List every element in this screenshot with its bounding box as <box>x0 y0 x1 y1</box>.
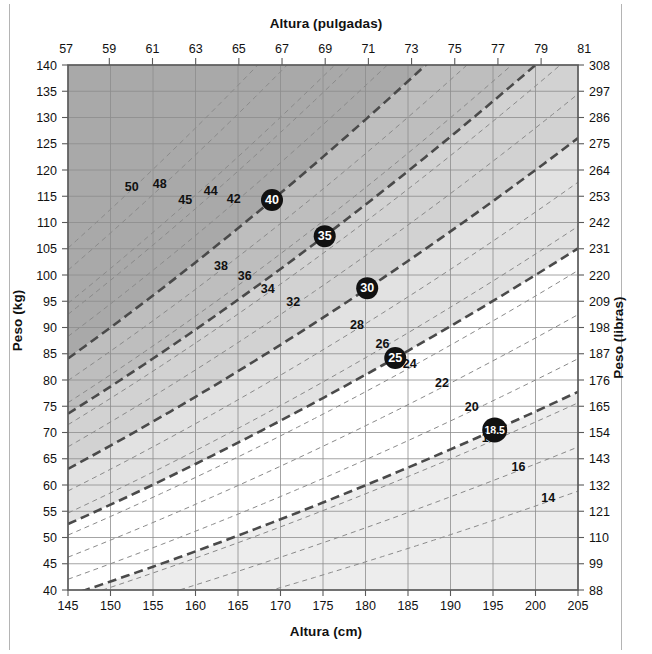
bmi-marker-28: 28 <box>350 318 364 332</box>
ylabel-kg-125: 125 <box>36 137 57 151</box>
bmi-marker-25: 25 <box>384 347 406 369</box>
ylabel-lb-286: 286 <box>589 111 610 125</box>
bmi-marker-26: 26 <box>376 337 390 351</box>
bmi-line-label: 50 <box>125 180 139 194</box>
xlabel-in-57: 57 <box>59 42 73 56</box>
ylabel-kg-80: 80 <box>43 374 57 388</box>
ylabel-lb-275: 275 <box>589 137 610 151</box>
ylabel-kg-75: 75 <box>43 400 57 414</box>
ylabel-lb-154: 154 <box>589 426 610 440</box>
bmi-marker-16: 16 <box>512 460 526 474</box>
bmi-chart-page: Altura (pulgadas) Altura (cm) Peso (kg) … <box>0 0 652 654</box>
bmi-marker-40: 40 <box>261 189 283 211</box>
xlabel-in-59: 59 <box>102 42 116 56</box>
ylabel-lb-99: 99 <box>589 557 603 571</box>
ylabel-lb-165: 165 <box>589 400 610 414</box>
ylabel-kg-105: 105 <box>36 242 57 256</box>
xlabel-cm-165: 165 <box>228 599 249 613</box>
xlabel-in-61: 61 <box>146 42 160 56</box>
xlabel-cm-145: 145 <box>58 599 79 613</box>
bmi-line-label: 18 <box>482 431 496 445</box>
ylabel-lb-253: 253 <box>589 190 610 204</box>
bmi-marker-38: 38 <box>214 259 228 273</box>
bmi-line-label: 48 <box>153 177 167 191</box>
bmi-marker-label: 30 <box>360 281 374 295</box>
xlabel-cm-155: 155 <box>143 599 164 613</box>
bmi-line-label: 45 <box>178 193 192 207</box>
bmi-marker-20: 20 <box>465 400 479 414</box>
bmi-marker-48: 48 <box>153 177 167 191</box>
xlabel-in-75: 75 <box>448 42 462 56</box>
bmi-marker-22: 22 <box>435 376 449 390</box>
bmi-marker-35: 35 <box>314 225 336 247</box>
bmi-marker-18: 18 <box>482 431 496 445</box>
ylabel-lb-187: 187 <box>589 347 610 361</box>
xlabel-cm-160: 160 <box>185 599 206 613</box>
xlabel-in-67: 67 <box>275 42 289 56</box>
ylabel-kg-140: 140 <box>36 59 57 73</box>
bmi-marker-32: 32 <box>286 295 300 309</box>
xlabel-cm-190: 190 <box>440 599 461 613</box>
ylabel-kg-40: 40 <box>43 584 57 598</box>
xlabel-cm-180: 180 <box>355 599 376 613</box>
ylabel-kg-115: 115 <box>37 190 57 204</box>
ylabel-lb-110: 110 <box>589 531 609 545</box>
xlabel-cm-200: 200 <box>525 599 546 613</box>
xlabel-in-71: 71 <box>361 42 375 56</box>
bmi-marker-50: 50 <box>125 180 139 194</box>
ylabel-kg-65: 65 <box>43 452 57 466</box>
bmi-line-label: 44 <box>204 184 218 198</box>
ylabel-lb-198: 198 <box>589 321 610 335</box>
bmi-nomogram-plot: 1451501551601651701751801851901952002055… <box>0 0 652 654</box>
bmi-marker-label: 35 <box>318 229 332 243</box>
bmi-marker-36: 36 <box>238 269 252 283</box>
ylabel-lb-143: 143 <box>589 452 610 466</box>
xlabel-in-79: 79 <box>534 42 548 56</box>
ylabel-kg-90: 90 <box>43 321 57 335</box>
bmi-marker-label: 40 <box>265 193 279 207</box>
ylabel-lb-308: 308 <box>589 59 610 73</box>
ylabel-lb-176: 176 <box>589 374 610 388</box>
xlabel-cm-150: 150 <box>100 599 121 613</box>
xlabel-in-81: 81 <box>577 42 591 56</box>
xlabel-cm-170: 170 <box>270 599 291 613</box>
bmi-line-label: 28 <box>350 318 364 332</box>
xlabel-cm-195: 195 <box>483 599 504 613</box>
ylabel-lb-121: 121 <box>589 505 610 519</box>
xlabel-in-69: 69 <box>318 42 332 56</box>
bmi-line-label: 32 <box>286 295 300 309</box>
ylabel-kg-85: 85 <box>43 347 57 361</box>
ylabel-kg-45: 45 <box>43 557 57 571</box>
bmi-marker-44: 44 <box>204 184 218 198</box>
bmi-line-label: 22 <box>435 376 449 390</box>
ylabel-kg-110: 110 <box>37 216 57 230</box>
ylabel-kg-50: 50 <box>43 531 57 545</box>
xlabel-in-77: 77 <box>491 42 505 56</box>
bmi-marker-34: 34 <box>261 282 275 296</box>
ylabel-kg-135: 135 <box>36 85 57 99</box>
bmi-marker-45: 45 <box>178 193 192 207</box>
xlabel-cm-175: 175 <box>313 599 334 613</box>
ylabel-kg-55: 55 <box>43 505 57 519</box>
ylabel-lb-209: 209 <box>589 295 610 309</box>
ylabel-lb-264: 264 <box>589 164 610 178</box>
bmi-line-label: 20 <box>465 400 479 414</box>
ylabel-lb-242: 242 <box>589 216 610 230</box>
grid-lines <box>68 65 578 590</box>
ylabel-lb-132: 132 <box>589 479 610 493</box>
ylabel-kg-60: 60 <box>43 479 57 493</box>
xlabel-cm-205: 205 <box>568 599 589 613</box>
bmi-line-label: 14 <box>541 491 555 505</box>
ylabel-lb-88: 88 <box>589 584 603 598</box>
ylabel-lb-297: 297 <box>589 85 610 99</box>
bmi-marker-42: 42 <box>227 192 241 206</box>
ylabel-kg-100: 100 <box>36 269 57 283</box>
bmi-line-label: 16 <box>512 460 526 474</box>
xlabel-in-73: 73 <box>405 42 419 56</box>
xlabel-cm-185: 185 <box>398 599 419 613</box>
xlabel-in-65: 65 <box>232 42 246 56</box>
bmi-marker-30: 30 <box>356 277 378 299</box>
ylabel-kg-120: 120 <box>36 164 57 178</box>
bmi-line-label: 42 <box>227 192 241 206</box>
bmi-line-label: 36 <box>238 269 252 283</box>
